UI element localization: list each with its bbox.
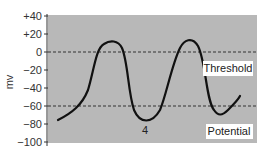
ytick-label: +20 — [23, 28, 42, 40]
y-tick-labels: +40 +20 0 −20 −40 −60 −80 −100 — [17, 10, 42, 148]
ytick-label: +40 — [23, 10, 42, 22]
ytick-label: 0 — [36, 46, 42, 58]
ytick-label: −100 — [17, 136, 42, 148]
plot-area — [48, 15, 257, 143]
phase-4-label: 4 — [142, 124, 148, 136]
chart: +40 +20 0 −20 −40 −60 −80 −100 mv Thresh… — [0, 0, 263, 154]
threshold-label: Threshold — [204, 62, 253, 74]
ytick-label: −80 — [23, 118, 42, 130]
ytick-label: −60 — [23, 100, 42, 112]
ytick-label: −20 — [23, 64, 42, 76]
potential-label: Potential — [208, 125, 251, 137]
ytick-label: −40 — [23, 82, 42, 94]
y-axis-label: mv — [3, 74, 15, 89]
